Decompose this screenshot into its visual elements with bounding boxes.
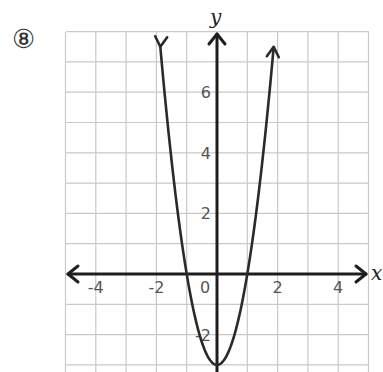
graph: -4-2240-2246 x y [0, 0, 383, 372]
arrowhead-icon [155, 36, 167, 46]
y-tick-label: 2 [201, 204, 211, 223]
x-tick-label: -2 [148, 278, 164, 297]
x-tick-label: 2 [273, 278, 283, 297]
y-axis-label: y [209, 5, 222, 29]
x-tick-label: 4 [333, 278, 343, 297]
y-tick-label: 4 [201, 144, 211, 163]
y-tick-label: 6 [201, 83, 211, 102]
axes [68, 34, 366, 372]
x-tick-label: -4 [88, 278, 104, 297]
x-axis-label: x [371, 261, 382, 285]
origin-label: 0 [200, 278, 210, 297]
